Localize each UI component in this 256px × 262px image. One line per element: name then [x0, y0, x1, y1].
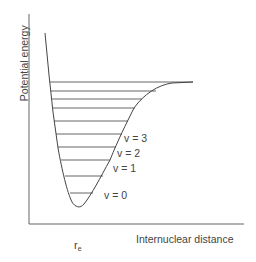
potential-energy-diagram: Potential energy Internuclear distance r… — [0, 0, 256, 262]
level-label-v2: v = 2 — [117, 148, 140, 159]
re-sub: e — [78, 245, 82, 252]
diagram-canvas — [0, 0, 256, 262]
equilibrium-distance-label: re — [74, 240, 82, 252]
level-label-v1: v = 1 — [113, 163, 136, 174]
level-label-v3: v = 3 — [124, 133, 147, 144]
potential-curve — [45, 33, 193, 207]
level-label-v0: v = 0 — [104, 190, 127, 201]
vibrational-levels — [50, 82, 193, 193]
x-axis-label: Internuclear distance — [136, 234, 233, 245]
y-axis-label: Potential energy — [19, 13, 30, 113]
